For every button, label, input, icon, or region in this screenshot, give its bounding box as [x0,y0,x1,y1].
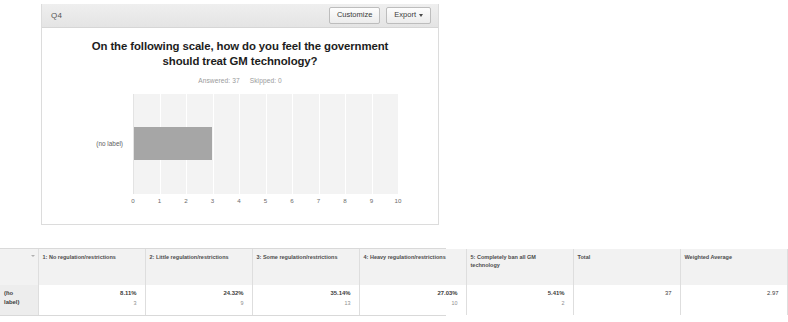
cell-count: 2 [471,299,565,307]
sort-arrow-icon [31,255,35,257]
table-header-choice-3[interactable]: 3: Some regulation/restrictions [252,249,359,285]
table-cell-choice-5: 5.41%2 [466,285,573,315]
chart-series [134,94,398,194]
table-cell-weighted-average: 2.97 [680,285,787,315]
table-header-total[interactable]: Total [573,249,680,285]
question-card-header: Q4 Customize Export [42,4,438,28]
question-card-body: On the following scale, how do you feel … [42,28,438,224]
answered-count: Answered: 37 [198,77,240,84]
table-header-choice-1[interactable]: 1: No regulation/restrictions [38,249,145,285]
table-row-label[interactable]: (no label) [0,285,38,315]
table-cell-choice-2: 24.32%9 [145,285,252,315]
x-axis-tick: 3 [211,197,214,204]
cell-count: 3 [43,299,137,307]
question-card-actions: Customize Export [329,7,431,24]
question-card: Q4 Customize Export On the following sca… [41,4,439,225]
chevron-down-icon [419,14,423,17]
cell-percent: 24.32% [224,290,244,296]
cell-count: 13 [257,299,351,307]
table-header-row: 1: No regulation/restrictions 2: Little … [0,249,787,285]
customize-button[interactable]: Customize [329,7,380,24]
cell-percent: 8.11% [120,290,136,296]
page-title: On the following scale, how do you feel … [42,39,438,70]
x-axis-tick: 2 [184,197,187,204]
x-axis-tick: 9 [370,197,373,204]
table-header-weighted-average[interactable]: Weighted Average [680,249,787,285]
bar-segment[interactable] [134,127,212,160]
table-cell-total: 37 [573,285,680,315]
table-cell-choice-3: 35.14%13 [252,285,359,315]
response-stats: Answered: 37Skipped: 0 [42,77,438,84]
export-button[interactable]: Export [386,7,431,24]
cell-count: 10 [364,299,458,307]
expander-caret-icon[interactable] [5,291,9,293]
table-row: (no label) 8.11%3 24.32%9 35.14%13 27.03… [0,285,787,315]
x-axis-tick: 6 [290,197,293,204]
answer-data-table: 1: No regulation/restrictions 2: Little … [0,248,446,316]
chart-category-label: (no label) [82,94,128,194]
chart-plot-area [133,94,398,194]
x-axis-tick: 10 [395,197,402,204]
table-header-choice-2[interactable]: 2: Little regulation/restrictions [145,249,252,285]
cell-percent: 35.14% [331,290,351,296]
x-axis-tick: 7 [317,197,320,204]
table-header-choice-5[interactable]: 5: Completely ban all GM technology [466,249,573,285]
question-title-line-1: On the following scale, how do you feel … [92,40,321,52]
table-header-corner[interactable] [0,249,38,285]
cell-count: 9 [150,299,244,307]
x-axis-tick: 5 [264,197,267,204]
table-header-choice-4[interactable]: 4: Heavy regulation/restrictions [359,249,466,285]
x-axis-tick: 8 [343,197,346,204]
x-axis-tick: 0 [131,197,134,204]
skipped-count: Skipped: 0 [250,77,282,84]
bar-chart: (no label) 012345678910 [82,94,398,216]
x-axis-tick: 4 [237,197,240,204]
export-button-label: Export [394,10,416,19]
question-id-label: Q4 [51,11,62,20]
cell-percent: 5.41% [548,290,565,296]
x-axis-tick: 1 [158,197,161,204]
chart-x-axis: 012345678910 [133,197,398,209]
table-cell-choice-1: 8.11%3 [38,285,145,315]
cell-percent: 27.03% [438,290,458,296]
table-cell-choice-4: 27.03%10 [359,285,466,315]
